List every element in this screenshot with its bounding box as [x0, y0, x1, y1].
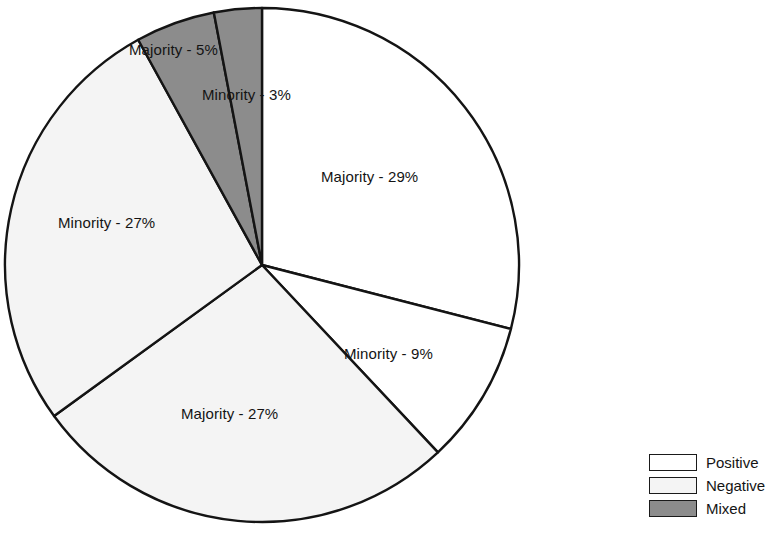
chart-legend: PositiveNegativeMixed [649, 451, 779, 520]
pie-slice-label: Majority - 5% [129, 41, 218, 58]
pie-chart-canvas [0, 0, 540, 533]
legend-label: Negative [706, 477, 765, 494]
pie-slice-label: Minority - 3% [202, 86, 291, 103]
pie-slice-label: Minority - 27% [58, 214, 155, 231]
legend-item[interactable]: Positive [649, 451, 779, 474]
legend-label: Mixed [706, 500, 746, 517]
legend-item[interactable]: Mixed [649, 497, 779, 520]
pie-chart-figure: Majority - 29%Minority - 9%Majority - 27… [0, 0, 782, 533]
pie-slice-label: Majority - 29% [321, 168, 418, 185]
pie-slice-label: Minority - 9% [344, 345, 433, 362]
legend-label: Positive [706, 454, 759, 471]
legend-item[interactable]: Negative [649, 474, 779, 497]
legend-swatch [649, 477, 697, 494]
legend-swatch [649, 454, 697, 471]
pie-slice-label: Majority - 27% [181, 405, 278, 422]
legend-swatch [649, 500, 697, 517]
